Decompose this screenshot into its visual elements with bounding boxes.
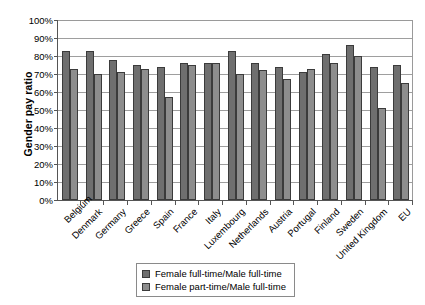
bar (157, 67, 165, 200)
x-axis-tick-label: Belgium (62, 206, 81, 225)
bar-group (342, 20, 366, 200)
bar (133, 65, 141, 200)
bar (299, 72, 307, 200)
legend-item-label: Female part-time/Male full-time (155, 280, 286, 293)
legend-item-series-1: Female part-time/Male full-time (142, 280, 286, 293)
bar-group (389, 20, 413, 200)
bar (236, 74, 244, 200)
bar-group (224, 20, 248, 200)
bar (204, 63, 212, 200)
chart-legend: Female full-time/Male full-time Female p… (136, 263, 295, 297)
y-axis-tick-label: 40% (11, 123, 53, 134)
bar-group (366, 20, 390, 200)
bar (117, 72, 125, 200)
plot-area: 100%90%80%70%60%50%40%30%20%10%0% (57, 20, 413, 201)
bar (322, 54, 330, 200)
bar (188, 65, 196, 200)
bar (275, 67, 283, 200)
bar-group (176, 20, 200, 200)
y-axis-tick-label: 60% (11, 87, 53, 98)
bar-group (105, 20, 129, 200)
bar (141, 69, 149, 200)
x-axis-labels: BelgiumDenmarkGermanyGreeceSpainFranceIt… (57, 206, 413, 268)
bar-group (153, 20, 177, 200)
y-axis-tick-label: 100% (11, 15, 53, 26)
bars-layer (58, 20, 413, 200)
bar (346, 45, 354, 200)
bar (228, 51, 236, 200)
bar-group (82, 20, 106, 200)
bar (94, 74, 102, 200)
bar (401, 83, 409, 200)
bar (307, 69, 315, 200)
bar (393, 65, 401, 200)
y-axis-tick-label: 30% (11, 141, 53, 152)
bar-group (129, 20, 153, 200)
y-axis-tick-label: 70% (11, 69, 53, 80)
bar (180, 63, 188, 200)
legend-swatch-icon (142, 270, 150, 278)
bar-group (200, 20, 224, 200)
bar-group (318, 20, 342, 200)
bar (251, 63, 259, 200)
y-axis-tick-label: 50% (11, 105, 53, 116)
y-axis-tick-label: 90% (11, 33, 53, 44)
bar-group (58, 20, 82, 200)
bar-group (271, 20, 295, 200)
y-axis-tick-label: 0% (11, 195, 53, 206)
bar (330, 63, 338, 200)
bar (283, 79, 291, 200)
bar (354, 56, 362, 200)
bar (370, 67, 378, 200)
legend-item-series-0: Female full-time/Male full-time (142, 267, 286, 280)
bar (165, 97, 173, 200)
y-axis-tick-label: 10% (11, 177, 53, 188)
y-axis-tick-label: 20% (11, 159, 53, 170)
y-axis-tick-label: 80% (11, 51, 53, 62)
legend-item-label: Female full-time/Male full-time (155, 267, 282, 280)
bar (70, 69, 78, 200)
bar-group (247, 20, 271, 200)
bar (259, 70, 267, 200)
bar (62, 51, 70, 200)
bar (86, 51, 94, 200)
bar-group (295, 20, 319, 200)
gender-pay-ratio-bar-chart: Gender pay ratio 100%90%80%70%60%50%40%3… (0, 0, 425, 305)
bar (109, 60, 117, 200)
bar (212, 63, 220, 200)
legend-swatch-icon (142, 283, 150, 291)
bar (378, 108, 386, 200)
